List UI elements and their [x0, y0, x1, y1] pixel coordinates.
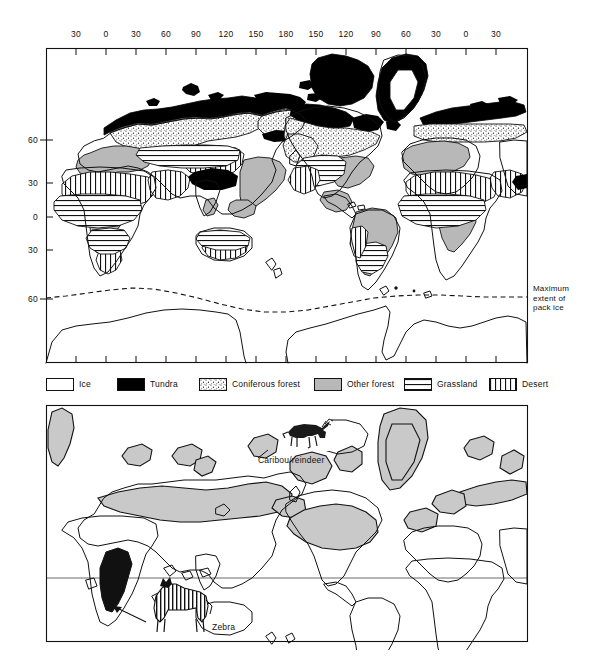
figure-root: 30 0 30 60 90 120 150 180 150 120 90 60 …: [0, 0, 594, 668]
legend-item-other-forest: Other forest: [314, 374, 394, 394]
conif-europe-r: [414, 124, 527, 142]
legend-label-other-forest: Other forest: [347, 379, 394, 389]
desert-arabia: [148, 170, 190, 200]
top-map-x-label-2: 30: [131, 29, 141, 39]
legend-item-desert: Desert: [489, 374, 548, 394]
top-map-x-label-10: 90: [371, 29, 381, 39]
legend-label-grassland: Grassland: [437, 379, 478, 389]
biome-legend: Ice Tundra Coniferous forest Other fores…: [46, 374, 528, 396]
top-map-x-label-4: 90: [191, 29, 201, 39]
legend-label-desert: Desert: [522, 379, 548, 389]
grassland-swatch-icon: [404, 378, 432, 391]
top-map-x-label-5: 120: [218, 29, 233, 39]
top-map-y-label-0: 60: [22, 135, 38, 145]
top-map-y-label-4: 60: [22, 294, 38, 304]
caribou-illustration: [281, 417, 333, 451]
coniferous-forest-swatch-icon: [199, 378, 227, 391]
legend-label-tundra: Tundra: [150, 379, 178, 389]
tundra-island-a: [146, 98, 160, 106]
pack-ice-line: [46, 288, 527, 312]
other-forest-swatch-icon: [314, 378, 342, 391]
grassland-africa: [54, 194, 142, 228]
zebra-label: Zebra: [212, 622, 235, 632]
biome-regions: [54, 54, 527, 276]
caribou-reindeer-label: Caribou/reindeer: [258, 455, 325, 465]
tundra-island-novaya: [182, 83, 200, 96]
desert-swatch-icon: [489, 378, 517, 391]
top-map-x-label-1: 0: [103, 29, 108, 39]
top-map-x-label-7: 180: [278, 29, 293, 39]
zebra-illustration: [154, 577, 212, 632]
top-map-y-label-3: 30: [22, 245, 38, 255]
legend-item-tundra: Tundra: [117, 374, 178, 394]
legend-item-grassland: Grassland: [404, 374, 478, 394]
legend-label-coniferous-forest: Coniferous forest: [232, 379, 300, 389]
top-map-x-label-0: 30: [71, 29, 81, 39]
ice-swatch-icon: [46, 378, 74, 391]
top-map-y-label-2: 0: [22, 212, 38, 222]
desert-nam-sw: [288, 166, 320, 194]
otherforest-sea: [228, 200, 256, 218]
top-map-x-label-12: 30: [431, 29, 441, 39]
grassland-eurasia: [136, 145, 240, 168]
top-map-x-label-11: 60: [401, 29, 411, 39]
top-map-x-label-9: 120: [338, 29, 353, 39]
bottom-map-svg: [0, 400, 594, 650]
top-map-x-label-6: 150: [248, 29, 263, 39]
grassland-australia: [196, 230, 250, 250]
tundra-swatch-icon: [117, 378, 145, 391]
top-map-y-label-1: 30: [22, 178, 38, 188]
top-map-svg: [0, 0, 594, 400]
top-map-x-label-14: 30: [491, 29, 501, 39]
pack-ice-annotation: Maximum extent of pack ice: [533, 284, 591, 313]
top-map-x-label-3: 60: [161, 29, 171, 39]
top-map-x-label-13: 0: [463, 29, 468, 39]
legend-label-ice: Ice: [79, 379, 91, 389]
legend-item-coniferous-forest: Coniferous forest: [199, 374, 300, 394]
legend-item-ice: Ice: [46, 374, 91, 394]
top-map-x-label-8: 150: [308, 29, 323, 39]
otherforest-india-s: [203, 198, 218, 216]
zebra-pointer-arrow: [113, 606, 146, 622]
antarctica: [46, 286, 527, 363]
